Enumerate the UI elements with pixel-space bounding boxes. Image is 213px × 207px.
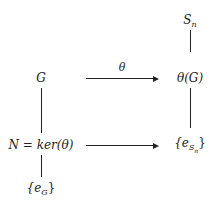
line-g-kernel — [41, 88, 42, 133]
arrow-label-theta: θ — [119, 61, 126, 74]
line-thetag-esn — [190, 88, 191, 128]
node-kernel: N = ker(θ) — [9, 138, 74, 152]
node-s-n-sub: n — [192, 20, 197, 29]
arrow-theta-head-icon — [153, 76, 159, 82]
arrow-kernel-esn-head-icon — [153, 143, 159, 149]
node-e-g-suffix: } — [48, 181, 56, 195]
node-e-sn-prefix: {e — [174, 136, 189, 150]
line-sn-thetag — [190, 30, 191, 52]
node-e-sn-suffix: } — [198, 136, 206, 150]
node-g: G — [36, 71, 46, 85]
node-s-n: Sn — [183, 13, 196, 29]
line-kernel-eg — [41, 155, 42, 177]
node-theta-g: θ(G) — [177, 71, 203, 85]
arrow-theta-line — [86, 78, 156, 79]
node-e-g-prefix: {e — [27, 181, 42, 195]
arrow-kernel-esn-line — [86, 145, 156, 146]
node-s-n-base: S — [183, 13, 191, 27]
node-e-g: {eG} — [27, 181, 56, 197]
node-e-sn: {eSn} — [174, 136, 206, 154]
node-e-sn-sub: Sn — [189, 143, 198, 152]
